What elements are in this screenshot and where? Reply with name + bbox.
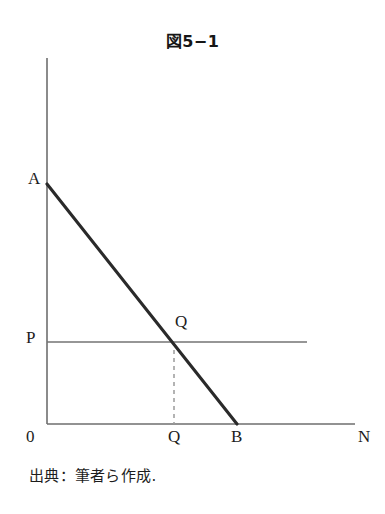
label-n-axis: N [358, 428, 370, 445]
label-a-intercept: A [28, 170, 40, 187]
demand-curve-line [47, 184, 237, 424]
label-origin: 0 [26, 428, 35, 445]
label-q-equilibrium: Q [175, 313, 187, 330]
plot-area [0, 0, 385, 460]
label-b-intercept: B [231, 428, 242, 445]
label-p-price: P [26, 329, 35, 346]
label-q-quantity-axis: Q [168, 428, 180, 445]
figure-source-caption: 出典：筆者ら作成. [29, 466, 156, 486]
figure-container: 図5−1 A P Q 0 Q B N 出典：筆者ら作成. [0, 0, 385, 514]
